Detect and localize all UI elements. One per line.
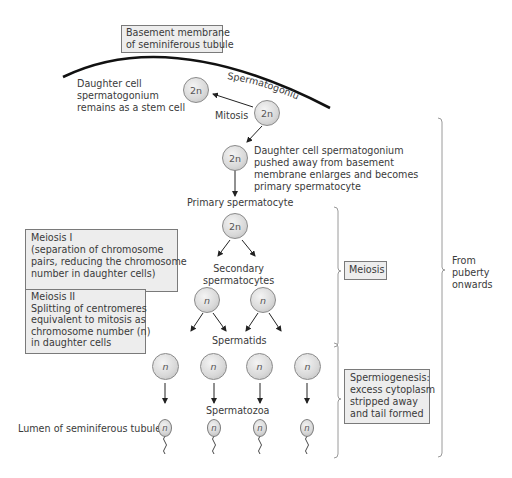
daughter-spermatogonium-cell: 2n	[222, 145, 248, 171]
pushed-away-label: Daughter cell spermatogonium pushed away…	[254, 145, 418, 193]
spermatids-label: Spermatids	[212, 335, 267, 347]
spermatid-cell: n	[294, 353, 321, 380]
from-puberty-label: From puberty onwards	[452, 255, 493, 291]
stem-cell: 2n	[183, 77, 209, 103]
spermatozoon-head: n	[207, 419, 221, 437]
meiosis-2-box: Meiosis II Splitting of centromeres equi…	[25, 289, 146, 354]
spermatozoa-label: Spermatozoa	[206, 405, 270, 417]
lumen-label: Lumen of seminiferous tubules	[18, 423, 166, 435]
secondary-spermatocyte-cell: n	[250, 287, 276, 313]
spermatozoon-head: n	[158, 419, 172, 437]
meiosis-box: Meiosis	[344, 261, 387, 280]
mitosis-label: Mitosis	[215, 110, 248, 122]
secondary-spermatocyte-cell: n	[194, 287, 220, 313]
spermatid-cell: n	[200, 353, 227, 380]
spermatid-cell: n	[246, 353, 273, 380]
spermatid-cell: n	[152, 353, 179, 380]
spermiogenesis-box: Spermiogenesis: excess cytoplasm strippe…	[344, 369, 430, 424]
spermatogonium-cell: 2n	[254, 100, 280, 126]
meiosis-1-box: Meiosis I (separation of chromosome pair…	[25, 229, 178, 292]
primary-spermatocyte-label: Primary spermatocyte	[187, 197, 293, 209]
secondary-spermatocytes-label: Secondary spermatocytes	[203, 263, 274, 287]
spermatozoon-head: n	[253, 419, 267, 437]
primary-spermatocyte-cell: 2n	[222, 213, 248, 239]
spermatozoon-head: n	[300, 419, 314, 437]
stem-cell-label: Daughter cell spermatogonium remains as …	[77, 78, 185, 114]
